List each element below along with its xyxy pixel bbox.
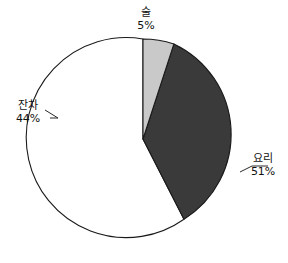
pie-chart-canvas — [0, 0, 288, 263]
pie-label-cooking: 요리 51% — [242, 152, 284, 179]
pie-label-cooking-name: 요리 — [242, 152, 284, 165]
pie-label-residual: 잔차 44% — [6, 99, 50, 126]
pie-label-alcohol-pct: 5% — [124, 19, 168, 32]
pie-label-alcohol: 술 5% — [124, 6, 168, 33]
pie-chart-figure: 술 5% 잔차 44% 요리 51% — [0, 0, 288, 263]
pie-label-alcohol-name: 술 — [124, 6, 168, 19]
figure-caption — [0, 250, 288, 263]
pie-label-residual-pct: 44% — [6, 112, 50, 125]
pie-label-residual-name: 잔차 — [6, 99, 50, 112]
pie-label-cooking-pct: 51% — [242, 165, 284, 178]
